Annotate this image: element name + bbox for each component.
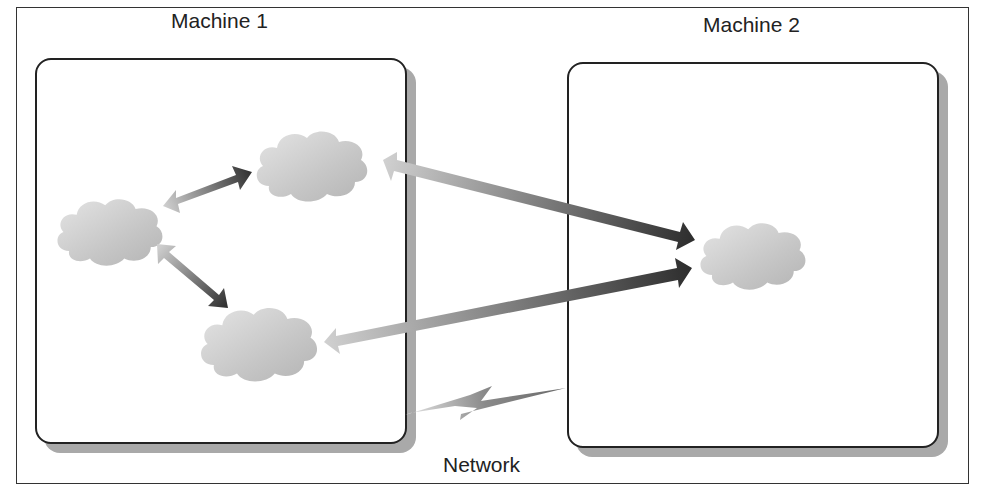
- cloud-node-m2-center: [700, 223, 805, 289]
- cloud-node-m1-left: [57, 199, 162, 265]
- cloud-node-m1-top: [257, 132, 368, 202]
- cloud-node-m1-bottom: [201, 308, 317, 381]
- bidirectional-arrow-m1top-m2: [383, 152, 695, 250]
- bidirectional-arrow-left-bottom: [157, 244, 228, 308]
- bidirectional-arrow-left-top: [163, 166, 252, 213]
- lightning-bolt-icon: [405, 386, 566, 420]
- diagram-graphics: [0, 0, 985, 502]
- bidirectional-arrow-m1bottom-m2: [324, 258, 692, 354]
